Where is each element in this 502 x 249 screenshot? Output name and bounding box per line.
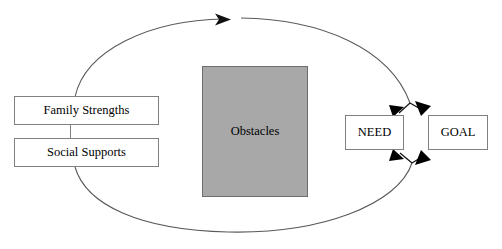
diagram-canvas: Family Strengths Social Supports Obstacl…	[0, 0, 502, 249]
node-family-strengths[interactable]: Family Strengths	[14, 96, 159, 125]
connector-family-to-social	[70, 124, 71, 139]
arrowhead-top-to-goal-icon	[415, 101, 431, 116]
node-need-label: NEED	[358, 126, 391, 139]
node-obstacles[interactable]: Obstacles	[202, 66, 308, 197]
node-family-strengths-label: Family Strengths	[44, 104, 130, 117]
node-need[interactable]: NEED	[345, 115, 404, 150]
arrowhead-bottom-to-goal-icon	[415, 150, 431, 165]
node-social-supports[interactable]: Social Supports	[14, 138, 159, 167]
node-goal[interactable]: GOAL	[428, 115, 488, 150]
node-social-supports-label: Social Supports	[47, 146, 126, 159]
node-goal-label: GOAL	[441, 126, 476, 139]
node-obstacles-label: Obstacles	[231, 125, 280, 138]
